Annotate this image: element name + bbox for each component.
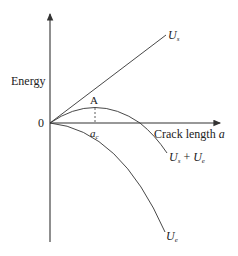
y-axis-label: Energy [11,74,45,88]
total-energy-label: Us + Ue [169,150,205,165]
curve-elastic-energy [50,123,165,232]
elastic-energy-label: Ue [166,229,178,244]
diagram-canvas: Energy 0 A ac Crack length a Us Us + Ue … [0,0,238,256]
peak-label: A [90,94,98,106]
surface-energy-label: Us [168,28,180,43]
energy-crack-diagram: Energy 0 A ac Crack length a Us Us + Ue … [0,0,238,256]
critical-length-label: ac [90,127,100,141]
curve-total-energy [50,108,167,154]
curve-surface-energy [50,35,166,123]
x-axis-label: Crack length a [154,127,225,141]
origin-label: 0 [38,116,44,130]
